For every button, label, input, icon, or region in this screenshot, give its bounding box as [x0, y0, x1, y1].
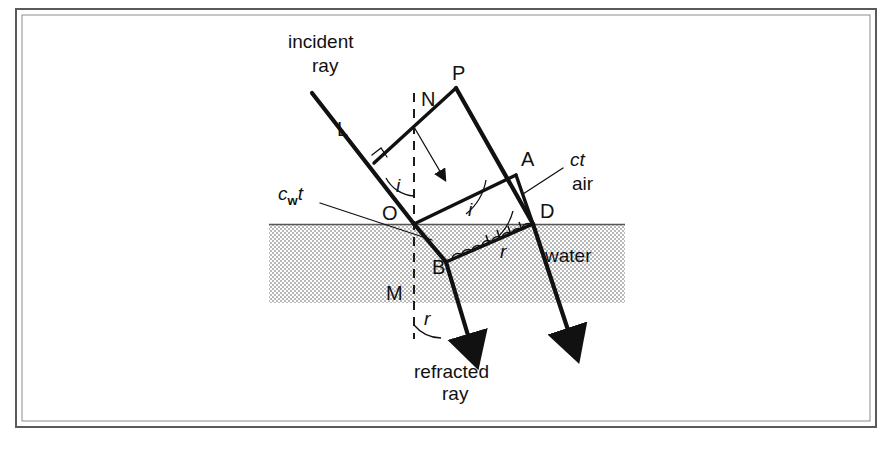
refraction-huygens-figure: incident ray L N P A O D B M i i r r ct … [0, 0, 892, 449]
air-label: air [572, 173, 594, 194]
ct-leader-line [523, 168, 563, 194]
angle-label-i-lower: i [468, 199, 473, 220]
point-label-O: O [382, 202, 398, 224]
incident-ray-label-line2: ray [312, 55, 339, 76]
wavefront-LP [374, 88, 456, 163]
point-label-M: M [386, 282, 403, 304]
refracted-ray-label-line2: ray [442, 383, 469, 404]
point-label-D: D [540, 200, 554, 222]
point-label-B: B [432, 256, 445, 278]
water-label: water [544, 245, 592, 266]
right-angle-mark [372, 148, 387, 157]
point-label-L: L [337, 118, 348, 140]
propagation-direction-arrow [414, 127, 441, 173]
wavefront-OA [414, 175, 516, 224]
cwt-label: cwt [278, 183, 304, 208]
angle-label-r-lower: r [424, 308, 431, 329]
point-label-P: P [452, 62, 465, 84]
incident-ray-L [312, 93, 414, 224]
point-label-A: A [521, 148, 535, 170]
incident-ray-label-line1: incident [288, 31, 354, 52]
cwt-label-t: t [298, 183, 304, 204]
cwt-label-c: c [278, 183, 288, 204]
point-label-N: N [421, 88, 435, 110]
refraction-diagram-canvas: incident ray L N P A O D B M i i r r ct … [0, 0, 892, 449]
angle-label-r-upper: r [500, 241, 507, 262]
refracted-ray-label-line1: refracted [414, 361, 489, 382]
ct-label: ct [570, 149, 586, 170]
